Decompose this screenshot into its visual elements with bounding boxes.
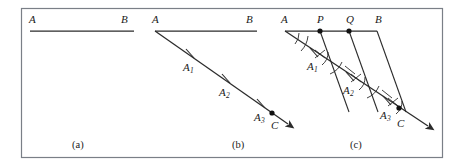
geometry-figure: A B A B A1 A2 A3 C A P Q B A1 A2 A3 C (a…	[0, 0, 460, 166]
caption-panel-b: (b)	[232, 140, 244, 151]
panel-c-point-label-P: P	[317, 14, 324, 25]
panel-c-point-label-B: B	[375, 14, 382, 25]
point-c-dot-c	[396, 105, 401, 110]
point-p-dot	[317, 28, 322, 33]
panel-c-point-label-A1: A1	[307, 61, 318, 74]
panel-c-point-label-A: A	[281, 14, 288, 25]
panel-b-point-label-A3: A3	[254, 112, 265, 125]
panel-c-point-label-Q: Q	[346, 14, 354, 25]
point-q-dot	[346, 28, 351, 33]
panel-c-point-label-C: C	[397, 118, 405, 129]
panel-a-point-label-A: A	[29, 14, 36, 25]
panel-c-point-label-A3: A3	[380, 110, 391, 123]
panel-b-point-label-A2: A2	[219, 87, 230, 100]
point-c-dot-b	[269, 110, 274, 115]
panel-b-point-label-C: C	[271, 120, 279, 131]
panel-a-point-label-B: B	[121, 14, 128, 25]
caption-panel-c: (c)	[350, 140, 362, 151]
panel-b-point-label-A: A	[152, 14, 159, 25]
caption-panel-a: (a)	[72, 140, 84, 151]
panel-b-point-label-B: B	[246, 14, 253, 25]
panel-b-point-label-A1: A1	[183, 62, 194, 75]
panel-c-point-label-A2: A2	[343, 85, 354, 98]
figure-canvas	[0, 0, 460, 166]
